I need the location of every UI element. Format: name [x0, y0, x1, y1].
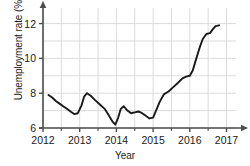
x-axis-arrowhead: [241, 125, 248, 132]
y-tick-label: 12: [24, 18, 36, 30]
tick-marks: 681012201220132014201520162017: [24, 18, 238, 146]
x-tick-label: 2012: [31, 134, 55, 146]
gridlines: [43, 8, 236, 128]
unemployment-rate-line-chart: Unemployment rate (%) Year 6810122012201…: [0, 0, 250, 166]
y-axis-arrowhead: [40, 1, 47, 8]
x-tick-label: 2017: [215, 134, 239, 146]
y-tick-label: 8: [30, 87, 36, 99]
x-tick-label: 2015: [141, 134, 165, 146]
plot-area: 681012201220132014201520162017: [0, 0, 250, 166]
data-series-line: [49, 25, 220, 124]
y-tick-label: 10: [24, 52, 36, 64]
x-tick-label: 2014: [105, 134, 129, 146]
x-tick-label: 2013: [68, 134, 92, 146]
x-tick-label: 2016: [178, 134, 202, 146]
y-tick-label: 6: [30, 122, 36, 134]
